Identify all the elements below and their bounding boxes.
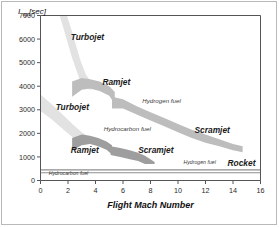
annotation-hydrogen-fuel-mid: Hydrogen fuel: [142, 97, 181, 104]
y-tick-label-6000: 6000: [19, 35, 35, 44]
x-ticks-group: 0246810121416: [39, 181, 265, 195]
y-tick-label-3000: 3000: [19, 105, 35, 114]
annotation-scramjet-hc: Scramjet: [138, 145, 175, 155]
x-tick-label-12: 12: [202, 186, 210, 195]
y-tick-label-5000: 5000: [19, 58, 35, 67]
annotations-group: TurbojetRamjetHydrogen fuelScramjetTurbo…: [49, 32, 257, 175]
y-axis-title-subscript: sp: [23, 11, 29, 17]
x-tick-label-0: 0: [39, 186, 43, 195]
annotation-hydrogen-fuel-rkt: Hydrogen fuel: [184, 159, 217, 165]
x-tick-label-2: 2: [66, 186, 70, 195]
annotation-hydrocarbon-fuel-rkt: Hydrocarbon fuel: [49, 170, 89, 176]
y-axis-title-unit: [sec]: [28, 7, 47, 16]
x-tick-label-10: 10: [174, 186, 182, 195]
x-tick-label-6: 6: [121, 186, 125, 195]
y-tick-label-0: 0: [31, 176, 35, 185]
x-axis-title: Flight Mach Number: [107, 200, 194, 210]
y-axis-title: Isp[sec]: [18, 7, 47, 17]
x-tick-label-8: 8: [149, 186, 153, 195]
x-tick-label-16: 16: [257, 186, 265, 195]
figure-container: 0100020003000400050006000700002468101214…: [0, 0, 279, 227]
y-tick-label-2000: 2000: [19, 129, 35, 138]
x-tick-label-14: 14: [229, 186, 237, 195]
isp-vs-mach-chart: 0100020003000400050006000700002468101214…: [0, 0, 279, 227]
x-tick-label-4: 4: [94, 186, 98, 195]
annotation-hydrocarbon-fuel-mid: Hydrocarbon fuel: [104, 125, 152, 132]
annotation-turbojet-h2: Turbojet: [71, 32, 106, 42]
series-band-0: [53, 0, 94, 90]
annotation-ramjet-h2: Ramjet: [102, 77, 131, 87]
annotation-scramjet-h2: Scramjet: [195, 125, 232, 135]
annotation-ramjet-hc: Ramjet: [71, 145, 100, 155]
y-tick-label-4000: 4000: [19, 82, 35, 91]
annotation-rocket: Rocket: [228, 158, 257, 168]
y-tick-label-1000: 1000: [19, 153, 35, 162]
y-ticks-group: 01000200030004000500060007000: [19, 11, 41, 185]
annotation-turbojet-hc: Turbojet: [56, 102, 91, 112]
